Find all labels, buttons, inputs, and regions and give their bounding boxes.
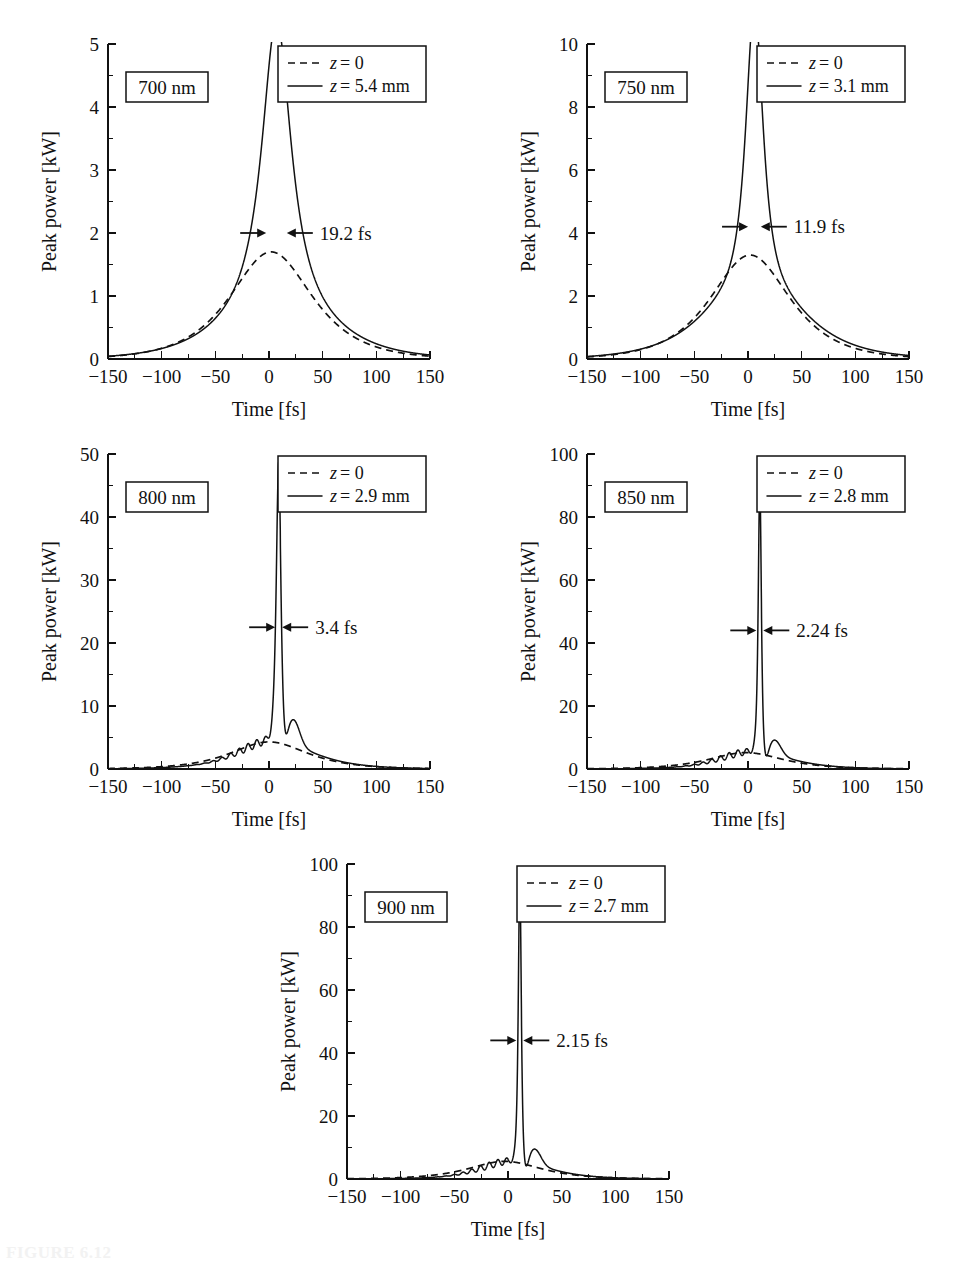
y-tick-label: 10 — [80, 696, 99, 717]
x-tick-label: 100 — [841, 776, 870, 797]
x-tick-label: 100 — [362, 366, 391, 387]
x-tick-label: −100 — [621, 366, 660, 387]
x-axis-title: Time [fs] — [711, 398, 785, 420]
plot-panel-900nm: −150−100−50050100150020406080100Time [fs… — [239, 834, 717, 1244]
plot-800nm: −150−100−5005010015001020304050Time [fs]… — [0, 424, 478, 834]
y-tick-label: 1 — [90, 286, 100, 307]
x-tick-label: 50 — [552, 1186, 571, 1207]
wavelength-label-text: 850 nm — [617, 487, 675, 508]
y-tick-label: 2 — [90, 223, 100, 244]
y-axis-title: Peak power [kW] — [517, 131, 540, 272]
x-tick-label: 50 — [313, 366, 332, 387]
x-tick-label: 0 — [264, 366, 274, 387]
y-tick-label: 0 — [329, 1169, 339, 1190]
x-tick-label: 150 — [655, 1186, 684, 1207]
x-tick-label: 0 — [743, 776, 753, 797]
y-tick-label: 0 — [569, 759, 579, 780]
legend-label: z= 2.7 mm — [568, 896, 649, 916]
y-tick-label: 40 — [319, 1043, 338, 1064]
y-tick-label: 80 — [319, 917, 338, 938]
y-tick-label: 0 — [90, 759, 100, 780]
figure-caption: FIGURE 6.12 — [6, 1243, 112, 1263]
y-axis-title: Peak power [kW] — [38, 541, 61, 682]
plot-900nm: −150−100−50050100150020406080100Time [fs… — [239, 834, 717, 1244]
fwhm-annotation: 2.24 fs — [730, 620, 848, 641]
fwhm-value-label: 3.4 fs — [315, 617, 357, 638]
series-curve-z-propagated — [587, 482, 909, 769]
plot-850nm: −150−100−50050100150020406080100Time [fs… — [479, 424, 957, 834]
x-tick-label: 50 — [792, 366, 811, 387]
wavelength-label-text: 900 nm — [377, 897, 435, 918]
x-axis-title: Time [fs] — [711, 808, 785, 830]
plot-750nm: −150−100−500501001500246810Time [fs]Peak… — [479, 14, 957, 424]
y-axis-title: Peak power [kW] — [517, 541, 540, 682]
plot-panel-850nm: −150−100−50050100150020406080100Time [fs… — [479, 424, 957, 834]
y-tick-label: 4 — [90, 97, 100, 118]
x-tick-label: 150 — [416, 776, 445, 797]
fwhm-value-label: 2.15 fs — [556, 1030, 608, 1051]
series-curve-z0 — [587, 255, 909, 357]
x-tick-label: −50 — [200, 776, 230, 797]
y-tick-label: 60 — [319, 980, 338, 1001]
y-axis-title: Peak power [kW] — [277, 951, 300, 1092]
x-tick-label: 0 — [503, 1186, 513, 1207]
y-axis-title: Peak power [kW] — [38, 131, 61, 272]
legend-label: z= 5.4 mm — [329, 76, 410, 96]
legend-label: z= 2.9 mm — [329, 486, 410, 506]
x-axis-title: Time [fs] — [232, 808, 306, 830]
plot-700nm: −150−100−50050100150012345Time [fs]Peak … — [0, 14, 478, 424]
wavelength-label-text: 750 nm — [617, 77, 675, 98]
y-tick-label: 40 — [559, 633, 578, 654]
fwhm-value-label: 19.2 fs — [320, 223, 372, 244]
x-tick-label: −100 — [142, 776, 181, 797]
x-tick-label: 100 — [841, 366, 870, 387]
x-axis-title: Time [fs] — [471, 1218, 545, 1240]
y-tick-label: 80 — [559, 507, 578, 528]
x-tick-label: 150 — [895, 366, 924, 387]
x-tick-label: −50 — [200, 366, 230, 387]
y-tick-label: 20 — [80, 633, 99, 654]
plot-panel-750nm: −150−100−500501001500246810Time [fs]Peak… — [479, 14, 957, 424]
y-tick-label: 10 — [559, 34, 578, 55]
x-tick-label: 100 — [601, 1186, 630, 1207]
wavelength-label-text: 700 nm — [138, 77, 196, 98]
fwhm-annotation: 2.15 fs — [490, 1030, 608, 1051]
y-tick-label: 20 — [559, 696, 578, 717]
x-tick-label: 50 — [313, 776, 332, 797]
y-tick-label: 50 — [80, 444, 99, 465]
x-tick-label: −100 — [621, 776, 660, 797]
plot-panel-700nm: −150−100−50050100150012345Time [fs]Peak … — [0, 14, 478, 424]
x-tick-label: −50 — [439, 1186, 469, 1207]
x-tick-label: −50 — [679, 366, 709, 387]
y-tick-label: 30 — [80, 570, 99, 591]
y-tick-label: 3 — [90, 160, 100, 181]
plot-panel-800nm: −150−100−5005010015001020304050Time [fs]… — [0, 424, 478, 834]
x-tick-label: −100 — [142, 366, 181, 387]
y-tick-label: 100 — [550, 444, 579, 465]
figure-root: −150−100−50050100150012345Time [fs]Peak … — [0, 0, 957, 1265]
legend-label: z= 0 — [329, 53, 364, 73]
legend-label: z= 0 — [808, 53, 843, 73]
legend-label: z= 2.8 mm — [808, 486, 889, 506]
y-tick-label: 40 — [80, 507, 99, 528]
y-tick-label: 60 — [559, 570, 578, 591]
x-tick-label: 150 — [416, 366, 445, 387]
fwhm-annotation: 3.4 fs — [249, 617, 357, 638]
fwhm-annotation: 19.2 fs — [240, 223, 371, 244]
wavelength-label-text: 800 nm — [138, 487, 196, 508]
fwhm-value-label: 2.24 fs — [796, 620, 848, 641]
fwhm-value-label: 11.9 fs — [794, 216, 845, 237]
x-tick-label: 50 — [792, 776, 811, 797]
y-tick-label: 2 — [569, 286, 579, 307]
y-tick-label: 5 — [90, 34, 100, 55]
y-tick-label: 0 — [569, 349, 579, 370]
x-tick-label: −100 — [381, 1186, 420, 1207]
y-tick-label: 20 — [319, 1106, 338, 1127]
legend-label: z= 0 — [329, 463, 364, 483]
legend-label: z= 3.1 mm — [808, 76, 889, 96]
y-tick-label: 6 — [569, 160, 579, 181]
legend-label: z= 0 — [808, 463, 843, 483]
legend-label: z= 0 — [568, 873, 603, 893]
x-tick-label: −50 — [679, 776, 709, 797]
y-tick-label: 8 — [569, 97, 579, 118]
